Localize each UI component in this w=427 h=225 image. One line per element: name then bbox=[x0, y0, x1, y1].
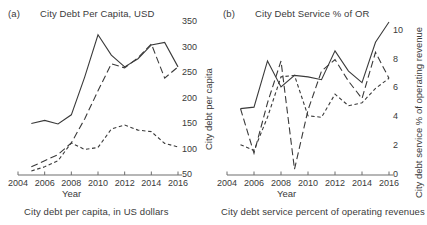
panel-b-yaxis-title: City debt service % of operating revenue bbox=[413, 27, 424, 198]
y-tick-label: 4 bbox=[393, 111, 398, 121]
y-tick-label: 2 bbox=[393, 140, 398, 150]
y-tick-label: 150 bbox=[182, 118, 197, 128]
data-line-short-dash bbox=[241, 75, 390, 150]
data-line-long-dash bbox=[31, 44, 178, 167]
panel-a-plot bbox=[0, 0, 213, 225]
panel-b-caption: City debt service percent of operating r… bbox=[221, 206, 425, 217]
panel-a: (a) City Debt Per Capita, USD 5010015020… bbox=[0, 0, 213, 225]
figure-root: (a) City Debt Per Capita, USD 5010015020… bbox=[0, 0, 427, 225]
panel-a-xaxis-title: Year bbox=[62, 188, 81, 199]
data-line-short-dash bbox=[31, 125, 178, 171]
y-tick-label: 100 bbox=[182, 144, 197, 154]
panel-b: (b) City Debt Service % of OR 0246810 20… bbox=[213, 0, 426, 225]
data-line-solid bbox=[31, 35, 178, 124]
y-tick-label: 300 bbox=[182, 42, 197, 52]
panel-b-xaxis-title: Year bbox=[277, 188, 296, 199]
x-tick-label: 2016 bbox=[161, 178, 195, 188]
y-tick-label: 8 bbox=[393, 54, 398, 64]
y-tick-label: 250 bbox=[182, 67, 197, 77]
x-tick-label: 2016 bbox=[372, 178, 406, 188]
y-tick-label: 10 bbox=[393, 25, 403, 35]
data-line-solid bbox=[241, 22, 390, 109]
y-tick-label: 6 bbox=[393, 82, 398, 92]
y-tick-label: 200 bbox=[182, 93, 197, 103]
panel-a-caption: City debt per capita, in US dollars bbox=[24, 206, 168, 217]
y-tick-label: 350 bbox=[182, 16, 197, 26]
